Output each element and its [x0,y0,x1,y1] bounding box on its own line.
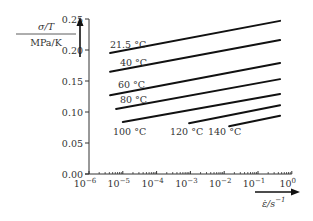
y-tick-label: 0.05 [62,138,83,149]
x-tick-label: 10−1 [243,177,265,189]
axes: 0.000.050.100.150.200.2510−610−510−410−3… [16,14,300,210]
series-line [229,116,280,127]
x-tick-label: 10−5 [108,177,130,189]
series-label: 40 °C [120,57,147,68]
series-label: 120 °C [170,126,203,137]
annotations: 21.5 °C40 °C60 °C80 °C100 °C120 °C140 °C [110,39,241,137]
y-tick-label: 0.10 [62,107,83,118]
y-tick-label: 0.15 [62,76,83,87]
y-axis-label-denominator: MPa/K [30,37,63,48]
data-lines [110,21,280,126]
series-label: 60 °C [118,79,145,90]
x-tick-label: 100 [280,177,297,189]
x-tick-label: 10−3 [175,177,197,189]
x-tick-label: 10−6 [74,177,97,189]
series-label: 100 °C [113,126,146,137]
series-label: 80 °C [120,94,147,105]
y-axis-label-numerator: σ/T [38,21,55,32]
x-tick-label: 10−4 [141,177,164,189]
x-axis-arrowhead-icon [291,189,300,196]
x-tick-label: 10−2 [209,177,231,189]
chart: 0.000.050.100.150.200.2510−610−510−410−3… [0,0,313,221]
series-label: 21.5 °C [110,39,146,50]
x-axis-label: ε̇/s−1 [262,196,286,209]
series-label: 140 °C [208,126,241,137]
